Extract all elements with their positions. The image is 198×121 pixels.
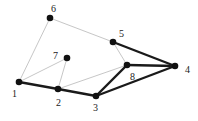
node-6 — [47, 15, 54, 22]
edges — [19, 18, 175, 96]
node-label-5: 5 — [119, 28, 124, 39]
node-labels: 12345678 — [12, 3, 190, 113]
node-label-4: 4 — [185, 64, 190, 75]
node-1 — [16, 79, 23, 86]
graph-diagram: 12345678 — [0, 0, 198, 121]
node-2 — [55, 86, 62, 93]
node-label-7: 7 — [53, 50, 58, 61]
node-5 — [110, 39, 117, 46]
node-label-8: 8 — [130, 71, 135, 82]
node-3 — [93, 93, 100, 100]
edge-1-2 — [19, 82, 58, 89]
node-label-1: 1 — [12, 88, 17, 99]
edge-3-4 — [96, 66, 175, 96]
node-4 — [172, 63, 179, 70]
edge-8-4 — [127, 65, 175, 66]
edge-5-4 — [113, 42, 175, 66]
edge-2-3 — [58, 89, 96, 96]
node-label-6: 6 — [51, 3, 56, 14]
node-7 — [64, 55, 71, 62]
edge-1-7 — [19, 58, 67, 82]
node-label-3: 3 — [93, 102, 98, 113]
node-label-2: 2 — [56, 97, 61, 108]
edge-1-6 — [19, 18, 50, 82]
edge-7-2 — [58, 58, 67, 89]
node-8 — [124, 62, 131, 69]
edge-6-5 — [50, 18, 113, 42]
